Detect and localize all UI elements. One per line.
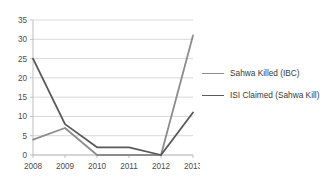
- svg-text:0: 0: [22, 151, 27, 160]
- series-line-2: [33, 59, 193, 155]
- legend-label-series-1: Sahwa Killed (IBC): [230, 69, 300, 77]
- legend-label-series-2: ISI Claimed (Sahwa Kill): [230, 91, 319, 99]
- svg-text:30: 30: [18, 35, 28, 44]
- line-chart: 05101520253035 200820092010201120122013 …: [0, 0, 335, 187]
- legend-item-sahwa-killed-ibc: Sahwa Killed (IBC): [202, 62, 335, 84]
- legend-swatch-series-1: [202, 73, 224, 74]
- y-tick-labels: 05101520253035: [18, 16, 28, 160]
- svg-text:20: 20: [18, 74, 28, 83]
- data-series: [33, 35, 193, 155]
- svg-text:2010: 2010: [88, 162, 107, 171]
- plot-area: 05101520253035 200820092010201120122013: [0, 0, 200, 187]
- svg-text:35: 35: [18, 16, 28, 25]
- series-line-1: [33, 35, 193, 155]
- chart-canvas: 05101520253035 200820092010201120122013: [0, 0, 200, 187]
- legend-swatch-series-2: [202, 95, 224, 96]
- svg-text:2008: 2008: [24, 162, 43, 171]
- gridlines: [33, 20, 193, 155]
- svg-text:10: 10: [18, 112, 28, 121]
- x-tick-labels: 200820092010201120122013: [24, 162, 200, 171]
- svg-text:2012: 2012: [152, 162, 171, 171]
- legend-item-isi-claimed-sahwa-kill: ISI Claimed (Sahwa Kill): [202, 84, 335, 106]
- svg-text:2011: 2011: [120, 162, 138, 171]
- svg-text:2013: 2013: [184, 162, 200, 171]
- svg-text:2009: 2009: [56, 162, 75, 171]
- svg-text:5: 5: [22, 132, 27, 141]
- svg-text:25: 25: [18, 55, 28, 64]
- chart-legend: Sahwa Killed (IBC) ISI Claimed (Sahwa Ki…: [202, 62, 335, 106]
- svg-text:15: 15: [18, 93, 28, 102]
